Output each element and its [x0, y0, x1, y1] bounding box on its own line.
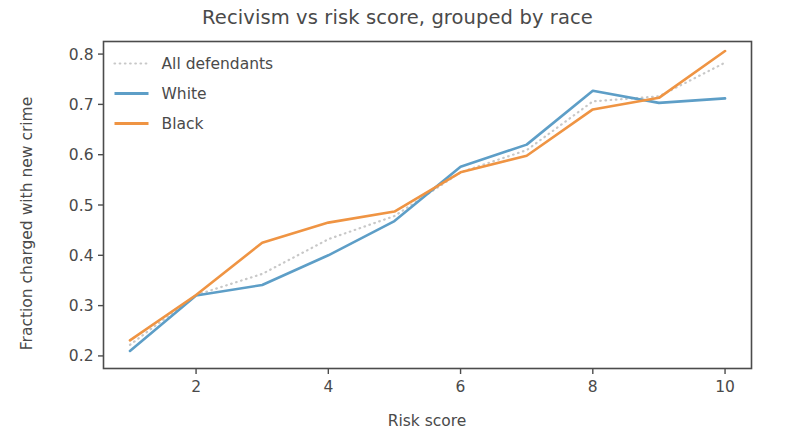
plot-area: 2468100.20.30.40.50.60.70.8 All defendan…	[0, 0, 795, 447]
legend-label: All defendants	[162, 55, 274, 73]
series-line-white	[130, 91, 725, 351]
y-tick-label: 0.7	[69, 96, 94, 114]
legend-layer: All defendantsWhiteBlack	[115, 55, 274, 133]
y-tick-label: 0.4	[69, 247, 94, 265]
chart-figure: Recivism vs risk score, grouped by race …	[0, 0, 795, 447]
x-tick-label: 8	[588, 378, 598, 396]
legend-label: Black	[162, 115, 204, 133]
y-tick-label: 0.5	[69, 197, 94, 215]
x-tick-label: 10	[715, 378, 735, 396]
y-tick-label: 0.3	[69, 297, 94, 315]
x-tick-label: 2	[191, 378, 201, 396]
x-tick-label: 6	[456, 378, 466, 396]
legend-label: White	[162, 85, 207, 103]
y-tick-label: 0.6	[69, 146, 94, 164]
y-tick-label: 0.2	[69, 347, 94, 365]
series-line-black	[130, 51, 725, 340]
y-tick-label: 0.8	[69, 46, 94, 64]
x-tick-label: 4	[323, 378, 333, 396]
series-layer	[130, 51, 725, 351]
series-line-all-defendants	[130, 63, 725, 345]
